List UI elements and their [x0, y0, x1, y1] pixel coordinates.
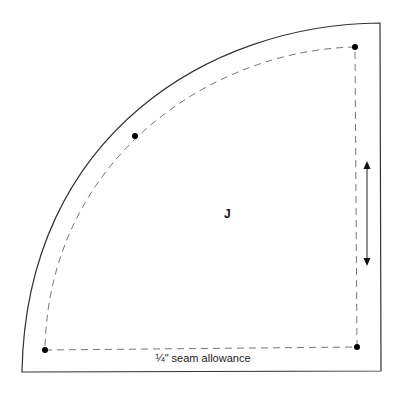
- outer-cut-line: [22, 23, 381, 372]
- dot-bottom-right: [354, 344, 360, 350]
- piece-label: J: [224, 207, 231, 221]
- template-diagram: [0, 0, 402, 394]
- seam-allowance-caption: ¼" seam allowance: [0, 352, 402, 364]
- dot-top-right: [352, 44, 358, 50]
- grain-arrow-icon: [364, 161, 371, 266]
- seam-line: [45, 47, 357, 350]
- dot-arc-mid: [132, 133, 138, 139]
- caption-text: ¼" seam allowance: [155, 352, 250, 364]
